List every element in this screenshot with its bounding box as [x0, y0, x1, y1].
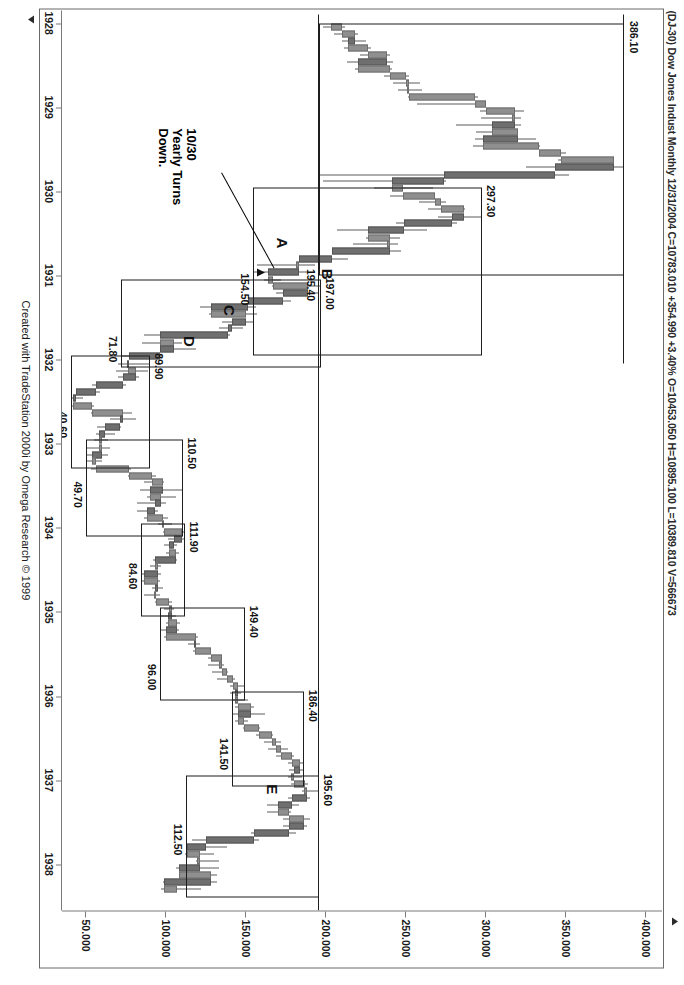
- price-tick-label: 350.000: [560, 919, 572, 957]
- quote-header: (DJ-30) Dow Jones Indust Monthly 12/31/2…: [666, 10, 678, 615]
- date-tick-label: 1929: [43, 95, 55, 118]
- price-plot-area: 386.10297.30195.40154.50197.0071.8089.90…: [62, 10, 662, 910]
- date-tick: [56, 359, 61, 360]
- swing-label-b: B: [319, 268, 336, 279]
- price-axis[interactable]: 400.000350.000300.000250.000200.000150.0…: [62, 910, 662, 968]
- price-tag: 154.50: [239, 273, 251, 305]
- price-tag: 89.90: [153, 353, 165, 379]
- swing-label-e: E: [264, 784, 281, 794]
- price-tag: 195.40: [305, 269, 317, 301]
- date-tick: [56, 864, 61, 865]
- price-tick: [405, 911, 406, 917]
- date-tick-label: 1930: [43, 179, 55, 202]
- date-tick-label: 1928: [43, 11, 55, 34]
- chart-canvas-rotated: (DJ-30) Dow Jones Indust Monthly 12/31/2…: [0, 0, 684, 985]
- date-tick: [56, 23, 61, 24]
- bar-body: [164, 885, 177, 892]
- software-credit: Created with TradeStation 2000i by Omega…: [20, 300, 32, 600]
- price-tag: 297.30: [485, 185, 497, 217]
- price-tick: [565, 911, 566, 917]
- swing-label-d: D: [181, 336, 198, 347]
- swing-box-4[interactable]: [86, 439, 183, 536]
- screenshot-root: (DJ-30) Dow Jones Indust Monthly 12/31/2…: [0, 0, 684, 985]
- date-tick: [56, 527, 61, 528]
- date-axis[interactable]: 1928192919301931193219331934193519361937…: [40, 10, 62, 910]
- swing-box-6[interactable]: [160, 607, 245, 700]
- price-tag: 110.50: [186, 437, 198, 469]
- price-tag: 40.60: [62, 411, 69, 437]
- date-tick: [56, 275, 61, 276]
- date-tick-label: 1932: [43, 347, 55, 370]
- price-tag: 195.60: [322, 773, 334, 805]
- price-tag: 386.10: [628, 21, 640, 53]
- date-tick-label: 1931: [43, 263, 55, 286]
- swing-box-5[interactable]: [141, 523, 185, 616]
- price-tag: 141.50: [218, 738, 230, 770]
- price-tick-label: 50.000: [80, 919, 92, 951]
- price-tick-label: 200.000: [320, 919, 332, 957]
- price-tick-label: 100.000: [160, 919, 172, 957]
- swing-box-7[interactable]: [232, 691, 304, 786]
- date-tick: [56, 696, 61, 697]
- price-tick: [245, 911, 246, 917]
- price-tag: 71.80: [107, 336, 119, 362]
- price-tick-label: 150.000: [240, 919, 252, 957]
- price-tag: 84.60: [127, 563, 139, 589]
- price-tick-label: 400.000: [640, 919, 652, 957]
- date-tick-label: 1937: [43, 768, 55, 791]
- date-tick: [56, 611, 61, 612]
- price-tag: 186.40: [307, 689, 319, 721]
- price-tag: 96.00: [146, 664, 158, 690]
- swing-box-2[interactable]: [121, 279, 321, 367]
- date-tick: [56, 191, 61, 192]
- price-tag: 111.90: [188, 521, 200, 552]
- price-tag: 49.70: [72, 481, 84, 507]
- chart-annotation-note: 10/30 Yearly Turns Down.: [156, 128, 198, 205]
- swing-label-c: C: [221, 304, 238, 315]
- date-tick-label: 1938: [43, 852, 55, 875]
- price-tag: 197.00: [324, 277, 336, 309]
- date-tick-label: 1933: [43, 431, 55, 454]
- scroll-down-arrow-icon[interactable]: [25, 14, 36, 25]
- price-tick-label: 250.000: [400, 919, 412, 957]
- price-tick: [645, 911, 646, 917]
- scroll-up-arrow-icon[interactable]: [669, 916, 680, 927]
- date-tick-label: 1935: [43, 600, 55, 623]
- date-tick-label: 1936: [43, 684, 55, 707]
- price-tag: 112.50: [172, 823, 184, 855]
- date-tick-label: 1934: [43, 516, 55, 539]
- date-tick: [56, 107, 61, 108]
- price-tag: 149.40: [248, 605, 260, 637]
- date-tick: [56, 443, 61, 444]
- price-tick: [165, 911, 166, 917]
- swing-box-8[interactable]: [186, 775, 319, 897]
- date-tick: [56, 780, 61, 781]
- swing-label-a: A: [274, 237, 291, 248]
- price-tick: [325, 911, 326, 917]
- price-tick: [85, 911, 86, 917]
- price-tick: [485, 911, 486, 917]
- turn-marker-icon: [257, 268, 265, 276]
- price-tick-label: 300.000: [480, 919, 492, 957]
